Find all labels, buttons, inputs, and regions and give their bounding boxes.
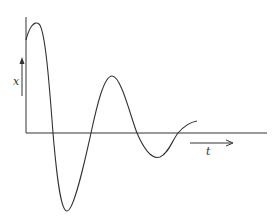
t-axis-label: t <box>206 145 211 158</box>
t-direction-arrow <box>190 140 233 146</box>
x-axis-label: x <box>13 75 20 88</box>
damped-oscillation-curve <box>26 23 197 211</box>
damped-oscillation-diagram: x t <box>0 0 279 224</box>
x-direction-arrow <box>20 57 25 96</box>
